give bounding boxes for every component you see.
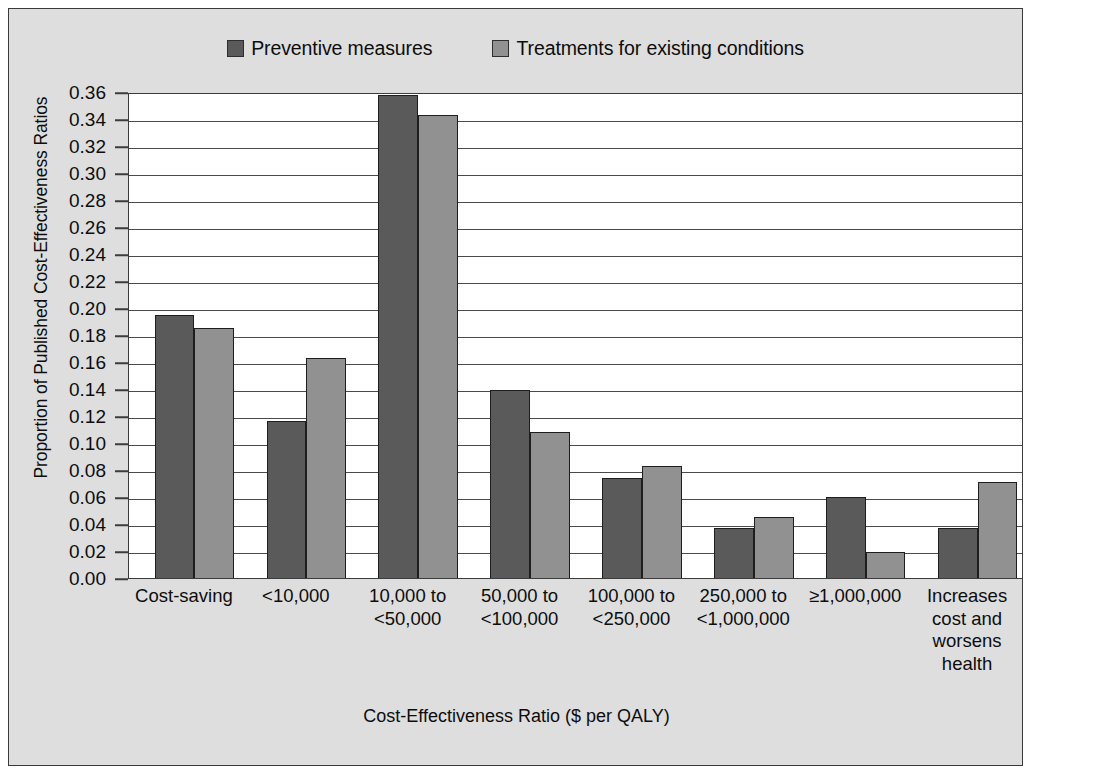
y-axis-tick-label: 0.26 [69,217,106,239]
bar [194,328,234,578]
y-axis-tick-mark [115,551,128,553]
y-axis-tick-mark [115,227,128,229]
bar [714,528,754,578]
chart-figure: Preventive measures Treatments for exist… [8,8,1023,766]
x-axis-tick-label: 50,000 to<100,000 [464,585,576,630]
bar [826,497,866,578]
y-axis-tick-mark [115,119,128,121]
bar [267,421,307,578]
y-axis-tick-mark [115,470,128,472]
y-axis-tick-mark [115,335,128,337]
y-axis-tick-label: 0.34 [69,109,106,131]
y-axis-tick-label: 0.22 [69,271,106,293]
y-axis-tick-label: 0.24 [69,244,106,266]
legend-item-treatments: Treatments for existing conditions [492,37,803,60]
bar [378,95,418,578]
y-axis-tick-label: 0.36 [69,82,106,104]
y-axis-tick-label: 0.18 [69,325,106,347]
y-axis-tick-label: 0.04 [69,514,106,536]
y-axis-tick-mark [115,524,128,526]
y-axis-tick-mark [115,200,128,202]
y-axis-tick-label: 0.12 [69,406,106,428]
y-axis-tick-label: 0.28 [69,190,106,212]
y-axis-tick-label: 0.16 [69,352,106,374]
y-axis-tick-label: 0.30 [69,163,106,185]
y-axis-tick-mark [115,281,128,283]
legend-label-treatments: Treatments for existing conditions [516,37,803,60]
y-axis-tick-label: 0.10 [69,433,106,455]
bar [754,517,794,578]
y-axis-ticks: 0.360.340.320.300.280.260.240.220.200.18… [9,93,128,579]
bar [306,358,346,578]
plot-area [128,93,1023,579]
y-axis-tick-label: 0.02 [69,541,106,563]
y-axis-tick-mark [115,92,128,94]
legend-label-preventive-measures: Preventive measures [251,37,432,60]
x-axis-tick-label: <10,000 [240,585,352,608]
x-axis-title: Cost-Effectiveness Ratio ($ per QALY) [9,706,1024,727]
y-axis-tick-label: 0.00 [69,568,106,590]
bar [530,432,570,578]
bar-series-group [129,94,1022,578]
x-axis-tick-label: Cost-saving [128,585,240,608]
bar [938,528,978,578]
bar [490,390,530,578]
legend-item-preventive-measures: Preventive measures [227,37,432,60]
y-axis-tick-mark [115,173,128,175]
legend-swatch-treatments [492,40,509,57]
y-axis-tick-mark [115,497,128,499]
x-axis-tick-labels: Cost-saving<10,00010,000 to<50,00050,000… [128,585,1023,695]
y-axis-tick-mark [115,146,128,148]
chart-legend: Preventive measures Treatments for exist… [9,37,1022,60]
y-axis-tick-mark [115,443,128,445]
bar [155,315,195,578]
bar [418,115,458,578]
y-axis-tick-mark [115,254,128,256]
y-axis-tick-mark [115,389,128,391]
x-axis-tick-label: 250,000 to<1,000,000 [687,585,799,630]
bar [642,466,682,578]
x-axis-tick-label: 10,000 to<50,000 [352,585,464,630]
y-axis-tick-mark [115,578,128,580]
bar [602,478,642,578]
y-axis-tick-mark [115,362,128,364]
x-axis-tick-label: ≥1,000,000 [799,585,911,608]
y-axis-tick-label: 0.32 [69,136,106,158]
x-axis-tick-label: 100,000 to<250,000 [576,585,688,630]
y-axis-tick-label: 0.08 [69,460,106,482]
y-axis-tick-mark [115,416,128,418]
x-axis-tick-label: Increasescost andworsenshealth [911,585,1023,675]
bar [866,552,906,578]
y-axis-tick-label: 0.20 [69,298,106,320]
y-axis-tick-label: 0.06 [69,487,106,509]
y-axis-tick-label: 0.14 [69,379,106,401]
y-axis-tick-mark [115,308,128,310]
bar [978,482,1018,578]
legend-swatch-preventive-measures [227,40,244,57]
